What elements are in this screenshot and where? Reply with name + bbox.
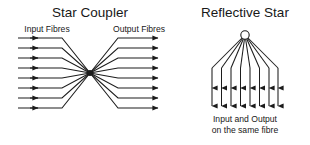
star-coupler-title: Star Coupler — [52, 5, 128, 20]
output-fibres-label: Output Fibres — [113, 24, 165, 34]
figure-root: Star Coupler Input Fibres Output Fibres … — [0, 0, 310, 145]
caption-line-1: Input and Output — [213, 114, 278, 124]
input-fibres-label: Input Fibres — [24, 24, 69, 34]
reflective-star-title: Reflective Star — [201, 5, 289, 20]
optical-coupler-diagram: Star Coupler Input Fibres Output Fibres … — [0, 0, 310, 145]
coupler-core-node — [87, 70, 93, 76]
caption-line-2: on the same fibre — [212, 125, 279, 135]
reflective-star-node — [241, 31, 249, 39]
